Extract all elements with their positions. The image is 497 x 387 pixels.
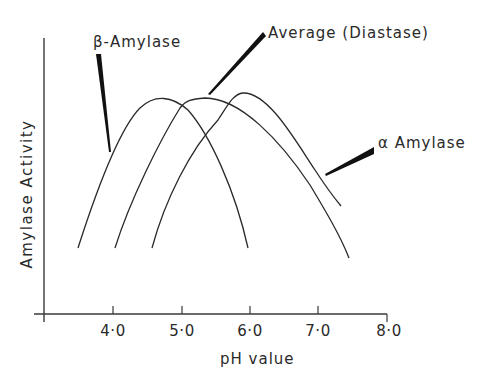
x-tick-8: 8·0 [376,322,401,340]
y-axis-title: Amylase Activity [18,119,36,269]
average-pointer [208,32,266,95]
x-tick-7: 7·0 [305,322,330,340]
curve-alpha-amylase [152,93,341,248]
x-tick-6: 6·0 [237,322,262,340]
alpha-pointer [325,147,374,176]
average-diastase-label: Average (Diastase) [268,24,429,42]
alpha-amylase-label: α Amylase [378,134,466,152]
x-tick-4: 4·0 [100,322,125,340]
x-axis-title: pH value [220,350,295,368]
x-tick-5: 5·0 [169,322,194,340]
curve-beta-amylase [78,98,248,248]
beta-pointer [96,54,111,152]
curve-average-diastase [115,98,349,258]
beta-amylase-label: β-Amylase [93,33,181,51]
